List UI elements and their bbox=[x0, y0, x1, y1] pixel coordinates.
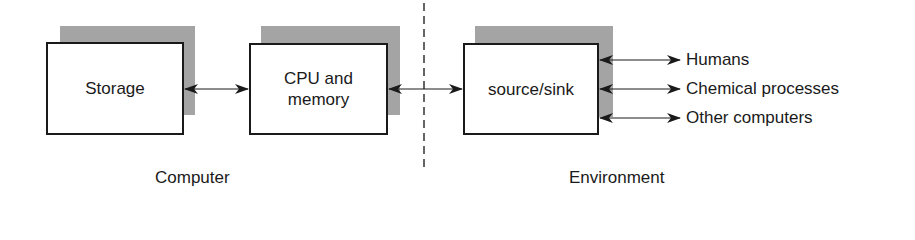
storage-label: Storage bbox=[85, 78, 145, 99]
target-label-other-computers: Other computers bbox=[686, 108, 813, 128]
cpu-memory-box: CPU and memory bbox=[249, 43, 388, 135]
region-label-computer: Computer bbox=[155, 168, 230, 188]
cpu-label-line1: CPU and bbox=[284, 68, 353, 89]
source-sink-label: source/sink bbox=[488, 79, 574, 100]
source-sink-box: source/sink bbox=[463, 43, 599, 135]
region-label-environment: Environment bbox=[569, 168, 664, 188]
target-label-chemical-processes: Chemical processes bbox=[686, 79, 839, 99]
cpu-label-line2: memory bbox=[284, 89, 353, 110]
target-label-humans: Humans bbox=[686, 50, 749, 70]
storage-box: Storage bbox=[46, 42, 184, 135]
